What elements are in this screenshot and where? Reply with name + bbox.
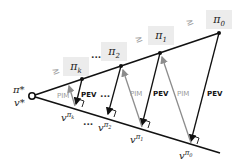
pim-label: PIM xyxy=(130,90,142,98)
value-label-1: vπ1 xyxy=(130,133,143,145)
pim-label: PIM xyxy=(57,92,69,100)
ellipsis: ... xyxy=(83,117,93,127)
pev-arrow-0 xyxy=(191,33,219,141)
value-label-2: vπ2 xyxy=(98,121,111,133)
value-label-k: vπk xyxy=(61,111,74,123)
pev-label: PEV xyxy=(153,90,168,98)
policy-box-1: π1 xyxy=(148,26,174,45)
ellipsis: ... xyxy=(91,50,101,60)
pev-arrow-1 xyxy=(142,53,160,125)
policy-box-0: π0 xyxy=(206,10,232,29)
policy-box-k: πk xyxy=(63,57,89,76)
pim-arrow-k xyxy=(69,86,75,106)
pim-label: PIM xyxy=(177,90,189,98)
value-label-0: vπ0 xyxy=(179,149,192,161)
optimal-policy-label: π* xyxy=(13,84,25,95)
pim-arrow-0 xyxy=(162,57,191,143)
value-line xyxy=(32,96,220,153)
policy-box-2: π2 xyxy=(101,42,127,61)
pev-label: PEV xyxy=(81,91,96,99)
ellipsis: ... xyxy=(100,89,110,99)
optimal-point xyxy=(29,93,35,99)
pev-label: PEV xyxy=(207,90,222,98)
optimal-value-label: v* xyxy=(14,97,25,108)
pim-arrow-1 xyxy=(123,70,142,127)
